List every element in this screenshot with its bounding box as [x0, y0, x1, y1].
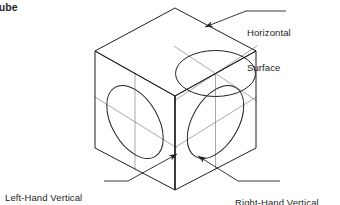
callout-left-vertical-surface-line1: Left-Hand Vertical: [5, 192, 82, 204]
callout-right-vertical-surface: Right-Hand Vertical Surface: [235, 174, 319, 205]
callout-left-vertical-surface: Left-Hand Vertical Surface: [5, 169, 82, 205]
callout-horizontal-surface-line2: Surface: [247, 62, 291, 74]
callout-right-vertical-surface-line1: Right-Hand Vertical: [235, 197, 319, 205]
callout-horizontal-surface-line1: Horizontal: [247, 27, 291, 39]
callout-horizontal-surface: Horizontal Surface: [247, 4, 291, 96]
figure-container: Cube: [0, 0, 340, 205]
cube-edges-group: [95, 8, 256, 190]
